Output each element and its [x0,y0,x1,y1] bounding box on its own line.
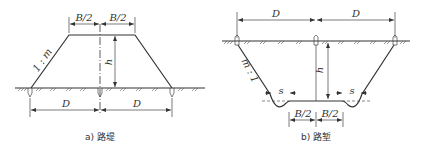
distance-right-label: D [351,8,360,19]
top-half-width-left-label: B/2 [74,12,92,23]
cutting-figure: D D m : 1 h s s B/2 B/2 b) 路堑 [222,8,410,142]
stake-left [28,88,32,97]
distance-left-label: D [271,8,280,19]
stake-center [314,35,318,45]
height-label: h [314,67,325,73]
distance-left-label: D [61,98,70,109]
embankment-caption: a) 路堤 [85,131,115,142]
slope-ratio-label: m : 1 [239,57,260,85]
embankment-outline [31,35,172,88]
height-label: h [103,59,114,65]
ditch-width-left-label: s [278,85,283,96]
cutting-caption: b) 路堑 [301,131,331,142]
stake-right [170,88,174,97]
roadbed-cross-section-diagram: B/2 B/2 1 : m h D D a) 路堤 [0,0,423,156]
top-half-width-right-label: B/2 [108,12,126,23]
bottom-half-width-left-label: B/2 [293,108,311,119]
bottom-half-width-right-label: B/2 [320,108,338,119]
embankment-figure: B/2 B/2 1 : m h D D a) 路堤 [15,12,205,142]
ditch-width-right-label: s [349,85,354,96]
distance-right-label: D [132,98,141,109]
